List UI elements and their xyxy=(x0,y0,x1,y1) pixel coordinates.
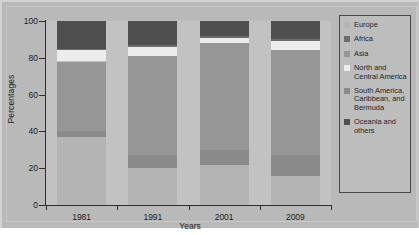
bar-segment xyxy=(200,21,249,36)
x-tick-label-1981: 1981 xyxy=(52,212,112,222)
bar-segment xyxy=(200,165,249,205)
figure-container: 020406080100 1981199120012009 Percentage… xyxy=(0,0,419,228)
y-tick-label: 100 xyxy=(4,17,38,25)
legend-label: South America, Caribbean, and Bermuda xyxy=(354,87,405,112)
x-tick-label-2009: 2009 xyxy=(265,212,325,222)
bar-segment xyxy=(128,45,177,47)
x-tick-mark xyxy=(189,205,190,210)
legend-swatch-icon xyxy=(344,88,350,94)
legend-label: Africa xyxy=(354,35,373,43)
legend-label: Asia xyxy=(354,50,368,58)
bar-segment xyxy=(128,155,177,168)
legend-label: North and Central America xyxy=(354,64,407,81)
bar-segment xyxy=(200,150,249,165)
legend-swatch-icon xyxy=(344,51,350,57)
legend-item: South America, Caribbean, and Bermuda xyxy=(344,87,407,112)
y-tick-label: 0 xyxy=(4,201,38,209)
bar-segment xyxy=(128,21,177,45)
x-tick-mark xyxy=(260,205,261,210)
y-tick-label: 20 xyxy=(4,164,38,172)
legend-label: Oceania and others xyxy=(354,118,396,135)
x-tick-mark xyxy=(46,205,47,210)
legend-swatch-icon xyxy=(344,65,350,71)
y-tick-mark xyxy=(39,21,45,22)
x-tick-mark xyxy=(331,205,332,210)
bar-segment xyxy=(57,131,106,137)
legend-item: Asia xyxy=(344,50,407,58)
legend-swatch-icon xyxy=(344,119,350,125)
legend-label: Europe xyxy=(354,21,378,29)
bar-1981 xyxy=(57,21,106,205)
y-tick-mark xyxy=(39,58,45,59)
legend-swatch-icon xyxy=(344,22,350,28)
legend-item: North and Central America xyxy=(344,64,407,81)
legend-swatch-icon xyxy=(344,36,350,42)
bar-segment xyxy=(128,56,177,155)
bar-segment xyxy=(57,50,106,61)
bar-1991 xyxy=(128,21,177,205)
x-axis-label: Years xyxy=(130,221,250,231)
bar-segment xyxy=(57,62,106,132)
bar-2001 xyxy=(200,21,249,205)
bar-segment xyxy=(271,50,320,155)
y-tick-mark xyxy=(39,205,45,206)
bar-segment xyxy=(57,137,106,205)
bar-segment xyxy=(128,47,177,56)
bar-segment xyxy=(271,176,320,205)
bar-segment xyxy=(200,36,249,38)
legend-item: Oceania and others xyxy=(344,118,407,135)
bar-segment xyxy=(271,41,320,50)
y-tick-mark xyxy=(39,95,45,96)
legend-item: Europe xyxy=(344,21,407,29)
bar-2009 xyxy=(271,21,320,205)
bar-segment xyxy=(200,38,249,44)
y-axis-label: Percentages xyxy=(6,54,16,144)
legend-item: Africa xyxy=(344,35,407,43)
legend: EuropeAfricaAsiaNorth and Central Americ… xyxy=(339,15,411,193)
x-tick-mark xyxy=(117,205,118,210)
y-tick-mark xyxy=(39,168,45,169)
bar-segment xyxy=(57,21,106,49)
bar-segment xyxy=(271,39,320,41)
plot-area xyxy=(46,21,331,205)
bar-segment xyxy=(128,168,177,205)
bar-segment xyxy=(271,21,320,39)
bar-segment xyxy=(271,155,320,175)
y-tick-mark xyxy=(39,131,45,132)
bar-segment xyxy=(57,49,106,51)
bar-segment xyxy=(200,43,249,150)
